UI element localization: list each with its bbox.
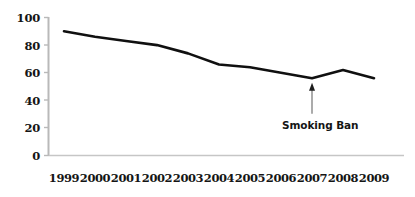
annotation-label-smoking-ban: Smoking Ban (282, 119, 358, 131)
x-axis-label-2005: 2005 (233, 171, 267, 185)
x-axis-label-2002: 2002 (140, 171, 174, 185)
chart-background (0, 0, 415, 197)
y-axis-label-20: 20 (6, 121, 40, 135)
x-axis-label-2009: 2009 (357, 171, 391, 185)
x-axis-label-2001: 2001 (109, 171, 143, 185)
x-axis-label-2000: 2000 (78, 171, 112, 185)
y-axis-label-40: 40 (6, 94, 40, 108)
y-axis-label-0: 0 (6, 149, 40, 163)
x-axis-label-2007: 2007 (295, 171, 329, 185)
chart-plot-area (0, 0, 415, 197)
x-axis-label-2003: 2003 (171, 171, 205, 185)
y-axis-label-100: 100 (6, 11, 40, 25)
x-axis-label-2006: 2006 (264, 171, 298, 185)
y-axis-label-80: 80 (6, 39, 40, 53)
x-axis-label-2004: 2004 (202, 171, 236, 185)
line-chart-figure: 100 80 60 40 20 0 1999 2000 2001 2002 20… (0, 0, 415, 197)
y-axis-label-60: 60 (6, 66, 40, 80)
x-axis-label-1999: 1999 (47, 171, 81, 185)
x-axis-label-2008: 2008 (326, 171, 360, 185)
